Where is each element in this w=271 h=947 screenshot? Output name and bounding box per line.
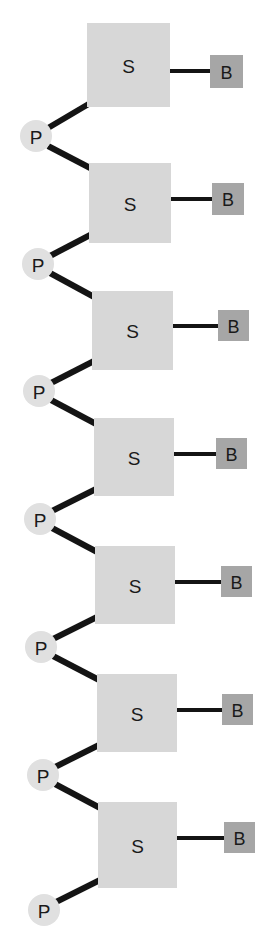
phosphodiester-bond — [51, 400, 98, 425]
phosphodiester-bond — [55, 744, 101, 767]
nucleic-acid-backbone-diagram: SSSSSSS BBBBBBB PPPPPPP — [0, 0, 271, 947]
phosphate-label: P — [38, 901, 51, 922]
base-label: B — [220, 63, 232, 83]
base-label: B — [230, 573, 242, 593]
phosphodiester-bond — [53, 616, 99, 639]
base-label: B — [233, 829, 245, 849]
sugar-label: S — [124, 194, 137, 215]
phosphodiester-bond — [52, 528, 99, 553]
phosphodiester-bond — [53, 656, 101, 681]
base-label: B — [227, 317, 239, 337]
phosphodiester-bond — [51, 360, 96, 383]
phosphate-label: P — [32, 255, 45, 276]
phosphate-group: PPPPPPP — [20, 120, 60, 926]
base-label: B — [231, 701, 243, 721]
phosphodiester-bond — [50, 233, 94, 256]
base-label: B — [222, 190, 234, 210]
phosphate-label: P — [30, 127, 43, 148]
base-group: BBBBBBB — [210, 55, 255, 853]
sugar-label: S — [126, 321, 139, 342]
sugar-label: S — [131, 836, 144, 857]
phosphodiester-bond — [50, 273, 96, 298]
phosphodiester-bond — [48, 146, 94, 170]
sugar-label: S — [122, 56, 135, 77]
sugar-label: S — [131, 704, 144, 725]
phosphate-label: P — [37, 766, 50, 787]
phosphodiester-bond — [52, 488, 98, 511]
phosphate-label: P — [34, 510, 47, 531]
phosphate-label: P — [33, 382, 46, 403]
sugar-group: SSSSSSS — [87, 23, 177, 888]
sugar-label: S — [129, 576, 142, 597]
phosphodiester-bond — [48, 102, 92, 128]
base-label: B — [225, 445, 237, 465]
phosphodiester-bond — [55, 784, 102, 809]
phosphate-label: P — [35, 638, 48, 659]
phosphodiester-bond — [56, 879, 102, 902]
backbone-canvas: SSSSSSS BBBBBBB PPPPPPP — [0, 0, 271, 947]
sugar-label: S — [128, 448, 141, 469]
